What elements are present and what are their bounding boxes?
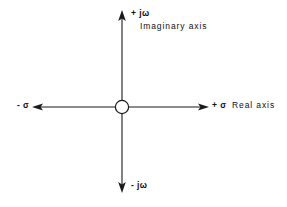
positive-real-label: + σ bbox=[212, 101, 226, 110]
positive-imaginary-label: + jω bbox=[131, 9, 149, 18]
negative-real-label: - σ bbox=[17, 101, 29, 110]
s-plane-diagram: + jω Imaginary axis - σ + σ Real axis - … bbox=[0, 0, 287, 207]
origin-marker-circle bbox=[115, 100, 128, 113]
imaginary-axis-name-label: Imaginary axis bbox=[140, 22, 207, 31]
negative-imaginary-label: - jω bbox=[131, 181, 147, 190]
real-axis-name-label: Real axis bbox=[232, 101, 275, 110]
